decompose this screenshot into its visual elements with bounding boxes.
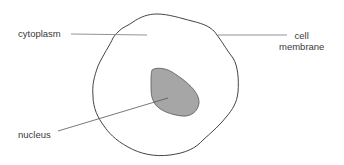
nucleus-label: nucleus bbox=[18, 129, 51, 140]
cell-diagram bbox=[0, 0, 344, 165]
cell-membrane-label: cell membrane bbox=[279, 30, 324, 52]
cell-membrane-label-line2: membrane bbox=[279, 41, 324, 52]
cell-membrane-label-line1: cell bbox=[279, 30, 324, 41]
cytoplasm-label: cytoplasm bbox=[18, 28, 61, 39]
